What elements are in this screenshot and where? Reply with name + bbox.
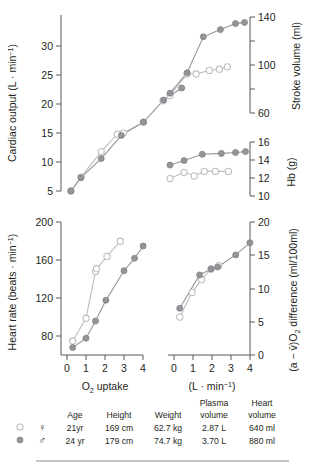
data-point — [224, 64, 230, 70]
data-point — [201, 168, 207, 174]
heart-rate-xtick-2: 2 — [102, 362, 108, 374]
heart-rate-xtick-1: 1 — [83, 362, 89, 374]
avo2-xtick-1: 1 — [190, 362, 196, 374]
cardiac-output-y-axis-label: Cardiac output (L · min−1) — [6, 44, 19, 162]
avo2-xtick-0: 0 — [171, 362, 177, 374]
panel-avo2-difference: 20 15 10 5 0 (a − v̄)O2 difference (ml/1… — [168, 216, 302, 393]
data-point — [217, 27, 223, 33]
data-point — [141, 119, 147, 125]
avo2-ytick-5: 5 — [258, 316, 264, 328]
avo2-xtick-2: 2 — [209, 362, 215, 374]
data-point — [233, 150, 239, 156]
legend-male-symbol-icon: ♂ — [38, 434, 46, 446]
data-point — [132, 255, 138, 261]
hb-markers-male — [167, 149, 249, 169]
data-point — [208, 266, 214, 272]
data-point — [103, 297, 109, 303]
cardiac-output-ytick-15: 15 — [41, 127, 53, 139]
heart-rate-series-male — [73, 246, 143, 348]
data-point — [197, 272, 203, 278]
legend-male-weight: 74.7 kg — [154, 436, 182, 446]
data-point — [167, 162, 173, 168]
legend-female-plasma-volume: 2.87 L — [202, 423, 226, 433]
data-point — [68, 188, 74, 194]
cardiac-output-ytick-30: 30 — [41, 40, 53, 52]
hb-y-axis-label: Hb (g) — [285, 157, 297, 186]
data-point — [179, 85, 185, 91]
avo2-ytick-10: 10 — [258, 283, 270, 295]
avo2-y-axis-label: (a − v̄)O2 difference (ml/100ml) — [287, 228, 302, 372]
legend-header-height: Height — [107, 410, 132, 420]
hb-ytick-12: 12 — [258, 172, 270, 184]
heart-rate-markers-female — [70, 238, 124, 344]
hb-ytick-16: 16 — [258, 136, 270, 148]
heart-rate-axis-label-group: Heart rate (beats · min−1) — [6, 234, 19, 351]
physiology-figure-svg: 30 25 20 15 10 5 Cardiac output (L · min… — [0, 0, 310, 471]
panel-cardiac-output: 30 25 20 15 10 5 Cardiac output (L · min… — [6, 15, 185, 197]
hb-series-female — [170, 171, 228, 178]
stroke-volume-ytick-140: 140 — [258, 11, 276, 23]
data-point — [184, 70, 190, 76]
x-axis-label-right: (L · min−1) — [189, 380, 236, 393]
data-point — [93, 318, 99, 324]
data-point — [83, 315, 89, 321]
data-point — [212, 168, 218, 174]
data-point — [118, 132, 124, 138]
avo2-xtick-4: 4 — [247, 362, 253, 374]
legend-male-plasma-volume: 3.70 L — [202, 436, 226, 446]
data-point — [193, 71, 199, 77]
data-point — [140, 243, 146, 249]
avo2-axis-label-group: (a − v̄)O2 difference (ml/100ml) — [287, 228, 302, 372]
legend-table: Plasma Heart Age Height Weight volume vo… — [17, 398, 289, 461]
stroke-volume-series-male — [170, 22, 245, 93]
heart-rate-xtick-0: 0 — [64, 362, 70, 374]
cardiac-output-ytick-10: 10 — [41, 156, 53, 168]
legend-header-weight: Weight — [155, 410, 182, 420]
data-point — [117, 238, 123, 244]
stroke-volume-ytick-100: 100 — [258, 59, 276, 71]
data-point — [98, 149, 104, 155]
heart-rate-series-female — [73, 241, 121, 341]
data-point — [83, 335, 89, 341]
data-point — [200, 34, 206, 40]
data-point — [93, 266, 99, 272]
cardiac-output-axis-label-group: Cardiac output (L · min−1) — [6, 44, 19, 162]
legend-female-symbol-icon: ♀ — [38, 421, 46, 433]
legend-marker-open-circle — [17, 424, 23, 430]
avo2-xtick-3: 3 — [228, 362, 234, 374]
cardiac-output-ytick-25: 25 — [41, 69, 53, 81]
stroke-volume-axis-label-group: Stroke volume (ml) — [290, 22, 302, 110]
data-point — [98, 156, 104, 162]
stroke-volume-ytick-60: 60 — [258, 107, 270, 119]
cardiac-output-ytick-20: 20 — [41, 98, 53, 110]
avo2-ytick-20: 20 — [258, 216, 270, 228]
data-point — [181, 169, 187, 175]
hb-ytick-14: 14 — [258, 154, 270, 166]
legend-male-height: 179 cm — [105, 436, 133, 446]
legend-female-heart-volume: 640 ml — [249, 423, 275, 433]
heart-rate-xtick-4: 4 — [140, 362, 146, 374]
data-point — [243, 149, 249, 155]
figure-root: 30 25 20 15 10 5 Cardiac output (L · min… — [0, 0, 310, 471]
stroke-volume-y-axis-label: Stroke volume (ml) — [290, 22, 302, 110]
hb-axis-label-group: Hb (g) — [285, 157, 297, 186]
panel-heart-rate: 200 160 120 80 Heart rate (beats · min−1… — [6, 216, 147, 395]
data-point — [233, 252, 239, 258]
data-point — [70, 345, 76, 351]
heart-rate-xtick-3: 3 — [121, 362, 127, 374]
avo2-ytick-0: 0 — [258, 349, 264, 361]
x-axis-label-left: O2 uptake — [82, 380, 129, 395]
data-point — [177, 314, 183, 320]
avo2-series-male — [180, 243, 250, 308]
data-point — [70, 338, 76, 344]
stroke-volume-markers-female — [167, 64, 231, 99]
data-point — [167, 176, 173, 182]
legend-marker-filled-circle — [17, 437, 23, 443]
data-point — [177, 305, 183, 311]
panel-stroke-volume: 140 100 60 Stroke volume (ml) — [167, 11, 302, 119]
data-point — [216, 66, 222, 72]
data-point — [233, 21, 239, 27]
legend-male-heart-volume: 880 ml — [249, 436, 275, 446]
legend-header-plasma-volume-line2: volume — [200, 410, 228, 420]
data-point — [225, 168, 231, 174]
